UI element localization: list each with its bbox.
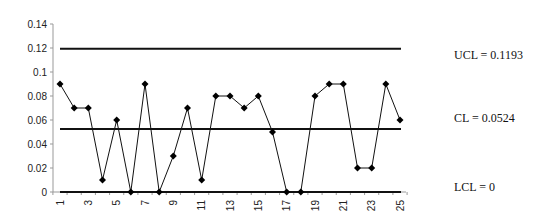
data-line [60,84,400,192]
ucl-label: UCL = 0.1193 [454,48,523,63]
y-tick-label: 0.04 [28,139,48,150]
data-point-marker [127,189,134,196]
y-tick-label: 0 [41,187,47,198]
data-point-marker [340,81,347,88]
data-point-marker [212,93,219,100]
data-point-marker [184,105,191,112]
data-point-marker [156,189,163,196]
data-point-marker [397,117,404,124]
x-tick-label: 5 [111,200,122,206]
data-point-marker [71,105,78,112]
data-point-marker [368,165,375,172]
data-point-marker [99,177,106,184]
data-point-marker [354,165,361,172]
y-tick-label: 0.02 [28,163,48,174]
data-point-marker [170,153,177,160]
cl-label: CL = 0.0524 [454,111,515,126]
x-tick-label: 19 [310,200,321,212]
data-point-marker [113,117,120,124]
x-tick-label: 15 [253,200,264,212]
data-point-marker [382,81,389,88]
y-tick-label: 0.06 [28,115,48,126]
x-tick-label: 17 [281,200,292,212]
data-point-marker [198,177,205,184]
lcl-label: LCL = 0 [454,180,495,195]
x-tick-label: 11 [196,200,207,211]
x-tick-label: 3 [83,200,94,206]
x-tick-label: 7 [140,200,151,206]
data-point-marker [142,81,149,88]
x-tick-label: 23 [366,200,377,212]
x-tick-label: 25 [395,200,406,212]
data-point-marker [283,189,290,196]
x-tick-label: 1 [55,200,66,206]
y-tick-label: 0.08 [28,91,48,102]
data-point-marker [297,189,304,196]
data-point-marker [85,105,92,112]
x-tick-label: 9 [168,200,179,206]
y-tick-label: 0.12 [28,43,48,54]
data-point-marker [57,81,64,88]
y-tick-label: 0.1 [33,67,47,78]
x-tick-label: 13 [225,200,236,212]
y-tick-label: 0.14 [28,19,48,30]
x-tick-label: 21 [338,200,349,212]
